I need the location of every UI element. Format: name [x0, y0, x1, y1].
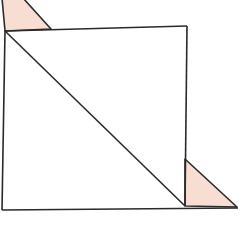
square-bottom-edge — [2, 208, 238, 210]
diagram-canvas — [0, 0, 248, 228]
square-left-edge — [2, 31, 5, 210]
bottom-right-triangle — [185, 159, 237, 207]
top-left-triangle — [2, 0, 51, 31]
diagonal-line — [5, 31, 185, 206]
